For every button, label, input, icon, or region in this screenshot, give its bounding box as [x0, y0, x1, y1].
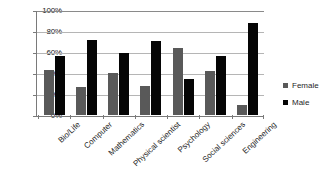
bar-group-engineering — [232, 11, 264, 115]
bar-male-physical-scientist — [151, 41, 161, 115]
y-axis-tick-80 — [33, 32, 37, 33]
chart-legend: Female Male — [283, 77, 329, 111]
bar-female-computer — [76, 87, 86, 115]
bar-male-mathematics — [119, 53, 129, 115]
legend-label-male: Male — [292, 98, 309, 107]
x-axis-labels: Bio/Life Computer Mathematics Physical s… — [36, 118, 264, 178]
bar-female-physical-scientist — [140, 86, 150, 115]
bar-female-bio-life — [44, 70, 54, 115]
y-axis-tick-0 — [33, 116, 37, 117]
bar-male-psychology — [184, 79, 194, 115]
bar-group-psychology — [167, 11, 199, 115]
y-axis-tick-40 — [33, 74, 37, 75]
bar-group-mathematics — [103, 11, 135, 115]
bar-male-computer — [87, 40, 97, 115]
y-axis-tick-20 — [33, 95, 37, 96]
bar-group-social-sciences — [199, 11, 231, 115]
legend-label-female: Female — [292, 81, 319, 90]
plot-area — [36, 11, 264, 117]
y-axis-tick-100 — [33, 11, 37, 12]
bar-group-bio-life — [38, 11, 70, 115]
bar-male-engineering — [248, 23, 258, 115]
y-axis-tick-60 — [33, 53, 37, 54]
legend-item-female[interactable]: Female — [283, 77, 329, 94]
bar-groups — [38, 11, 264, 115]
bar-female-engineering — [237, 105, 247, 115]
bar-female-social-sciences — [205, 71, 215, 115]
bar-group-physical-scientist — [135, 11, 167, 115]
bar-female-mathematics — [108, 73, 118, 115]
bar-male-social-sciences — [216, 56, 226, 115]
bar-group-computer — [70, 11, 102, 115]
legend-item-male[interactable]: Male — [283, 94, 329, 111]
bar-male-bio-life — [55, 56, 65, 115]
legend-swatch-male-icon — [283, 100, 288, 105]
bar-chart: 100% 80% 60% 40% 20% 0% — [0, 0, 329, 185]
bar-female-psychology — [173, 48, 183, 115]
legend-swatch-female-icon — [283, 83, 288, 88]
